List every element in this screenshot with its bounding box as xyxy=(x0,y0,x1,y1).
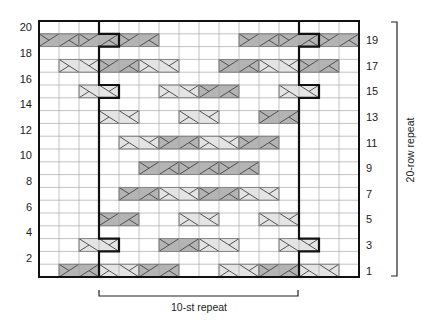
row-label: 14 xyxy=(20,98,32,110)
row-label: 18 xyxy=(20,47,32,59)
cable-knitting-chart: 2468101214161820 135791113151719 20-row … xyxy=(0,0,428,328)
row-label: 2 xyxy=(26,252,32,264)
row-label: 7 xyxy=(366,188,372,200)
row-label: 6 xyxy=(26,201,32,213)
row-label: 19 xyxy=(366,34,378,46)
row-label: 3 xyxy=(366,239,372,251)
row-label: 13 xyxy=(366,111,378,123)
row-label: 11 xyxy=(366,137,377,149)
row-label: 15 xyxy=(366,85,378,97)
row-label: 16 xyxy=(20,73,32,85)
row-repeat-label: 20-row repeat xyxy=(404,118,416,183)
left-row-labels: 2468101214161820 xyxy=(20,21,32,263)
row-label: 9 xyxy=(366,162,372,174)
row-label: 17 xyxy=(366,60,378,72)
row-repeat-bracket: 20-row repeat xyxy=(391,22,416,276)
stitch-repeat-label: 10-st repeat xyxy=(171,301,227,313)
row-label: 12 xyxy=(20,124,32,136)
row-label: 4 xyxy=(26,226,32,238)
right-row-labels: 135791113151719 xyxy=(366,34,378,276)
row-label: 5 xyxy=(366,213,372,225)
row-label: 20 xyxy=(20,21,32,33)
row-label: 1 xyxy=(366,265,372,277)
row-label: 10 xyxy=(20,149,32,161)
row-label: 8 xyxy=(26,175,32,187)
stitch-repeat-bracket: 10-st repeat xyxy=(99,290,298,313)
